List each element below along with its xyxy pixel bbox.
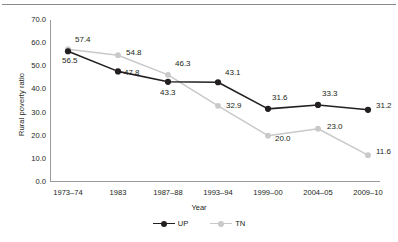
series-line-tn [68,49,368,155]
y-axis-tick-label: 0.0 [20,178,46,186]
data-label-up-1: 47.8 [124,69,140,77]
legend-label: TN [235,219,245,228]
data-point-tn-3 [215,103,221,109]
data-point-tn-4 [265,133,271,139]
y-axis-tick-label: 10.0 [20,155,46,163]
data-label-up-0: 56.5 [62,57,78,65]
data-label-up-3: 43.1 [225,69,241,77]
legend-swatch-tn-icon [210,219,232,228]
data-point-tn-1 [115,52,121,58]
data-point-up-6 [365,107,371,113]
data-label-tn-0: 57.4 [75,36,91,44]
legend-label: UP [178,219,189,228]
top-divider-rule [2,4,396,5]
data-point-up-3 [215,79,221,85]
data-label-tn-1: 54.8 [126,49,142,57]
y-axis-tick-label: 70.0 [20,16,46,24]
data-label-tn-5: 23.0 [327,123,343,131]
chart-figure: Rural poverty ratio 70.060.050.040.030.0… [0,0,398,242]
data-label-up-5: 33.3 [322,90,338,98]
legend-item-tn[interactable]: TN [210,219,245,228]
data-point-up-0 [65,48,71,54]
chart-legend: UPTN [0,219,398,228]
y-axis-tick-label: 20.0 [20,132,46,140]
data-point-up-5 [315,102,321,108]
series-container [50,20,380,182]
legend-swatch-up-icon [153,219,175,228]
data-label-up-4: 31.6 [272,94,288,102]
data-label-tn-3: 32.9 [226,102,242,110]
plot-area: 56.547.843.343.131.633.331.257.454.846.3… [50,20,380,182]
legend-item-up[interactable]: UP [153,219,189,228]
data-point-up-2 [165,79,171,85]
data-point-tn-6 [365,152,371,158]
y-axis-tick-label: 40.0 [20,85,46,93]
data-point-tn-2 [165,72,171,78]
data-label-up-6: 31.2 [376,102,392,110]
data-point-tn-5 [315,126,321,132]
data-label-up-2: 43.3 [160,89,176,97]
y-axis-tick-label: 30.0 [20,109,46,117]
y-axis-tick-label: 50.0 [20,62,46,70]
data-label-tn-4: 20.0 [275,135,291,143]
y-axis-tick-label: 60.0 [20,39,46,47]
data-point-up-1 [115,68,121,74]
data-label-tn-2: 46.3 [175,60,191,68]
x-axis-tick-label: 2009–10 [338,188,398,197]
data-label-tn-6: 11.6 [376,148,391,156]
data-point-up-4 [265,106,271,112]
x-axis-title: Year [0,203,398,212]
